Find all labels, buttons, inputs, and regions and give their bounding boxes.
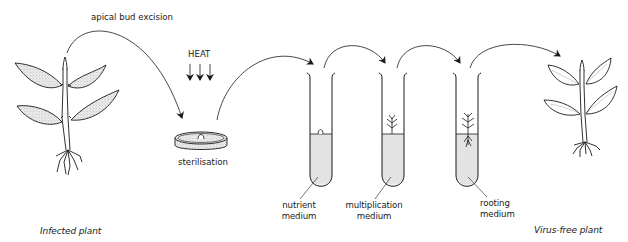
heat-label: HEAT — [188, 49, 211, 59]
leaf-upper-right — [586, 58, 611, 84]
sterilisation-label: sterilisation — [178, 157, 228, 167]
multiplication-line1: multiplication — [339, 200, 409, 211]
excision-arrow — [67, 31, 182, 118]
infected-plant-illustration — [15, 57, 119, 175]
transfer-arrow-1 — [217, 56, 313, 120]
multiplication-medium-label: multiplication medium — [339, 200, 409, 222]
transfer-arrow-3 — [397, 46, 460, 68]
leaf-lower-right — [586, 86, 617, 114]
shoot-cluster — [387, 115, 397, 134]
leaf-upper-right — [68, 65, 106, 88]
virus-free-plant-illustration — [544, 58, 617, 157]
test-tube-multiplication — [375, 73, 407, 199]
nutrient-line1: nutrient — [279, 200, 319, 211]
transfer-arrow-2 — [324, 46, 385, 68]
test-tube-rooting — [453, 73, 487, 197]
test-tube-nutrient — [300, 73, 335, 199]
virus-free-plant-label: Virus-free plant — [534, 225, 602, 236]
excision-label: apical bud excision — [91, 12, 173, 22]
multiplication-line2: medium — [339, 211, 409, 222]
rooting-line2: medium — [480, 209, 515, 220]
nutrient-medium-label: nutrient medium — [279, 200, 319, 222]
rooting-line1: rooting — [480, 198, 515, 209]
leaf-lower-right — [71, 90, 119, 120]
heat-arrows-icon — [190, 64, 210, 80]
leaf-lower-left — [17, 106, 62, 125]
infected-plant-label: Infected plant — [40, 226, 101, 237]
transfer-arrow-4 — [470, 44, 560, 68]
nutrient-line2: medium — [279, 211, 319, 222]
leaf-lower-left — [544, 100, 580, 115]
explant-bud — [318, 130, 323, 135]
petri-dish-illustration — [175, 132, 227, 150]
leaf-upper-left — [15, 63, 62, 88]
leader-line-nutrient — [300, 177, 318, 199]
rooting-medium-label: rooting medium — [480, 198, 515, 220]
